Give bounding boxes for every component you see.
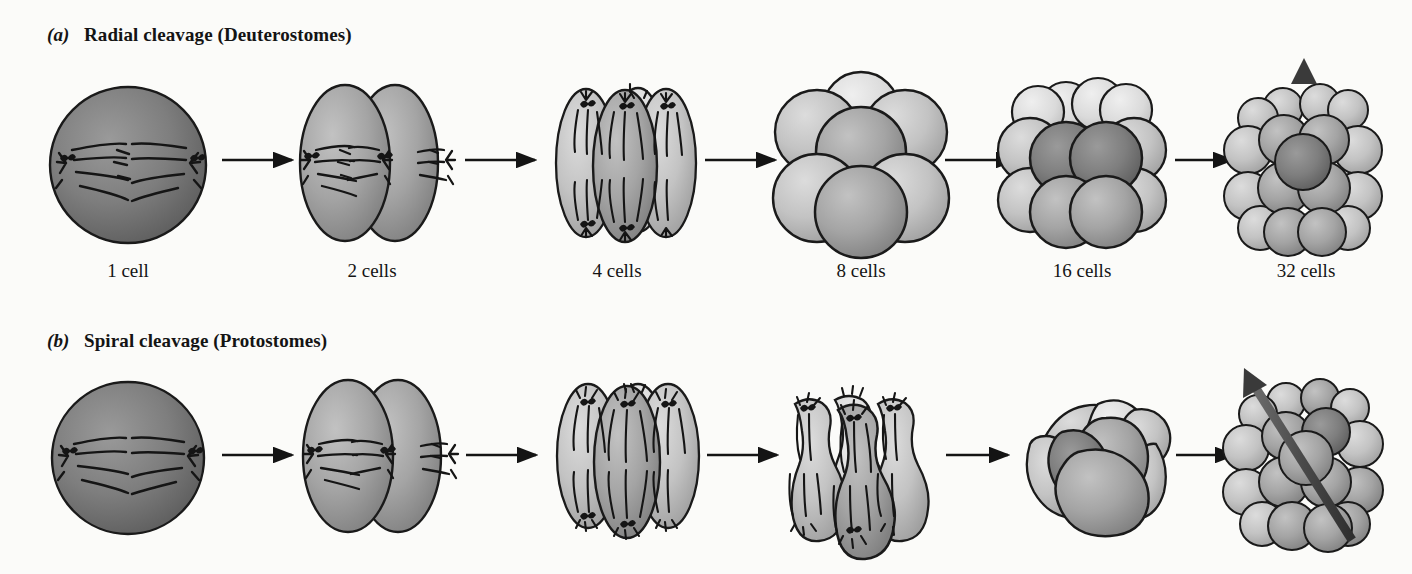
stage-label-1-cell: 1 cell xyxy=(38,260,218,282)
stage-spiral-2-cells xyxy=(303,380,458,532)
stage-radial-4-cells xyxy=(556,84,696,242)
stage-label-16-cells: 16 cells xyxy=(992,260,1172,282)
stage-spiral-16-cells xyxy=(1027,400,1170,536)
stage-radial-8-cells xyxy=(773,72,949,258)
stage-spiral-1-cell xyxy=(52,382,204,534)
stage-label-32-cells: 32 cells xyxy=(1216,260,1396,282)
cleavage-comparison-figure: (a) Radial cleavage (Deuterostomes) (b) … xyxy=(0,0,1412,574)
stage-radial-1-cell xyxy=(50,87,206,243)
stage-radial-16-cells xyxy=(998,78,1166,248)
stage-radial-2-cells xyxy=(300,85,455,241)
stage-label-8-cells: 8 cells xyxy=(771,260,951,282)
stage-spiral-4-cells xyxy=(557,384,699,539)
stage-radial-32-cells xyxy=(1224,58,1382,256)
row-radial-stages xyxy=(50,58,1382,258)
stage-label-2-cells: 2 cells xyxy=(282,260,462,282)
embryo-drawings xyxy=(0,0,1412,574)
row-spiral-stages xyxy=(52,368,1383,559)
stage-label-4-cells: 4 cells xyxy=(527,260,707,282)
stage-spiral-32-cells xyxy=(1223,368,1383,552)
stage-spiral-8-cells xyxy=(789,386,928,559)
